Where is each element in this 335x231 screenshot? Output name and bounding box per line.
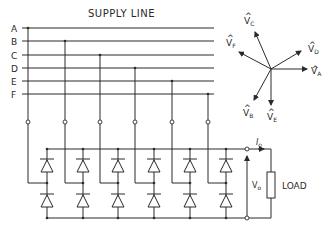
svg-text:^: ^ — [244, 104, 251, 113]
supply-line-title: SUPPLY LINE — [88, 8, 155, 19]
output-current-label: Io — [256, 138, 262, 148]
diode-icon — [41, 195, 53, 207]
phase-taps — [26, 27, 226, 183]
diode-icon — [148, 160, 160, 172]
supply-lines: A B C D E F — [11, 24, 214, 100]
phasor-c-arrow-icon — [255, 32, 271, 69]
line-label-d: D — [11, 64, 18, 74]
load-resistor-icon — [267, 172, 275, 198]
line-label-f: F — [11, 90, 16, 100]
line-label-e: E — [11, 77, 17, 87]
phasor-b-arrow-icon — [254, 69, 271, 100]
line-label-a: A — [11, 24, 18, 34]
diode-icon — [41, 160, 53, 172]
phasor-f-arrow-icon — [239, 52, 271, 69]
diode-icon — [220, 160, 232, 172]
diode-icon — [148, 195, 160, 207]
diode-icon — [184, 195, 196, 207]
phasor-d-arrow-icon — [271, 51, 301, 69]
diode-icon — [112, 160, 124, 172]
output-terminal-positive — [245, 147, 249, 151]
output-voltage-label: Vo — [252, 181, 261, 191]
diode-icon — [112, 195, 124, 207]
svg-text:^: ^ — [268, 108, 275, 117]
svg-text:^: ^ — [227, 34, 234, 43]
svg-text:^: ^ — [309, 41, 316, 50]
output-terminal-negative — [245, 216, 249, 220]
svg-text:^: ^ — [245, 12, 252, 21]
diode-icon — [220, 195, 232, 207]
diode-icon — [77, 160, 89, 172]
six-phase-rectifier-diagram: SUPPLY LINE A B C D E F — [0, 0, 335, 231]
output-section: Io Vo LOAD — [245, 138, 307, 220]
line-label-c: C — [11, 51, 17, 61]
svg-text:^: ^ — [312, 65, 319, 74]
line-label-b: B — [11, 37, 17, 47]
load-label: LOAD — [282, 181, 307, 191]
diode-icon — [184, 160, 196, 172]
diode-icon — [77, 195, 89, 207]
phasor-diagram: VA ^ VD ^ VC ^ VF ^ VB ^ VE ^ — [226, 12, 322, 123]
